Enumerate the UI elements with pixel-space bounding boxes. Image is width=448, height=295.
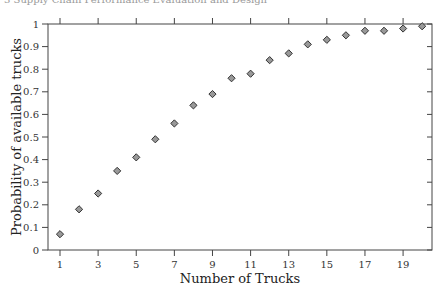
data-points (56, 23, 425, 238)
y-tick-label: 0.4 (23, 154, 39, 165)
y-tick-label: 0.2 (23, 199, 39, 210)
x-tick-label: 11 (244, 259, 257, 270)
y-tick-label: 0 (33, 245, 39, 256)
data-point-diamond-icon (380, 27, 387, 34)
x-tick-label: 13 (282, 259, 295, 270)
scatter-chart: 00.10.20.30.40.50.60.70.80.9113579111315… (0, 0, 448, 295)
y-tick-label: 0.9 (23, 41, 39, 52)
x-tick-label: 7 (171, 259, 177, 270)
y-tick-label: 0.1 (23, 222, 39, 233)
x-axis-label: Number of Trucks (180, 271, 300, 286)
x-tick-label: 1 (57, 259, 63, 270)
y-tick-label: 0.3 (23, 177, 39, 188)
plot-frame (48, 24, 432, 250)
x-tick-label: 3 (95, 259, 101, 270)
y-tick-label: 0.8 (23, 64, 39, 75)
data-point-diamond-icon (266, 57, 273, 64)
data-point-diamond-icon (285, 50, 292, 57)
plot-axes: 00.10.20.30.40.50.60.70.80.9113579111315… (23, 18, 432, 270)
y-tick-label: 0.7 (23, 86, 39, 97)
data-point-diamond-icon (247, 70, 254, 77)
x-tick-label: 15 (320, 259, 333, 270)
y-axis-label: Probability of available trucks (9, 38, 24, 236)
data-point-diamond-icon (323, 36, 330, 43)
x-tick-label: 9 (209, 259, 215, 270)
x-tick-label: 5 (133, 259, 139, 270)
data-point-diamond-icon (152, 136, 159, 143)
data-point-diamond-icon (56, 231, 63, 238)
data-point-diamond-icon (228, 75, 235, 82)
x-tick-label: 19 (397, 259, 410, 270)
data-point-diamond-icon (342, 32, 349, 39)
data-point-diamond-icon (209, 90, 216, 97)
data-point-diamond-icon (190, 102, 197, 109)
y-tick-label: 1 (33, 19, 39, 30)
data-point-diamond-icon (304, 41, 311, 48)
x-tick-label: 17 (359, 259, 372, 270)
data-point-diamond-icon (95, 190, 102, 197)
data-point-diamond-icon (114, 167, 121, 174)
data-point-diamond-icon (75, 206, 82, 213)
data-point-diamond-icon (361, 27, 368, 34)
data-point-diamond-icon (133, 154, 140, 161)
y-tick-label: 0.5 (23, 132, 39, 143)
data-point-diamond-icon (399, 25, 406, 32)
data-point-diamond-icon (171, 120, 178, 127)
y-tick-label: 0.6 (23, 109, 39, 120)
